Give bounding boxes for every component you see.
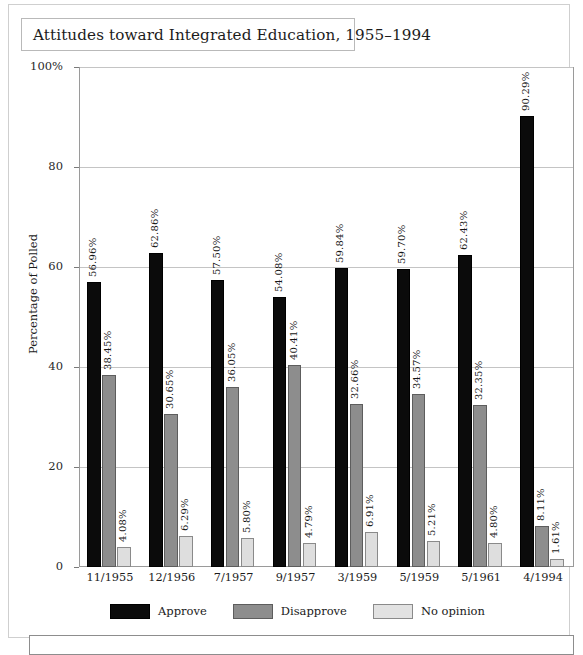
bar-value-label: 32.66% xyxy=(349,359,360,398)
bar-value-label: 90.29% xyxy=(520,71,531,110)
bar-value-label: 5.80% xyxy=(241,500,252,533)
legend-item-no-opinion[interactable]: No opinion xyxy=(373,604,485,619)
bar-disapprove[interactable]: 36.05% xyxy=(226,387,240,567)
bar-value-label: 36.05% xyxy=(226,342,237,381)
bar-group: 62.86%30.65%6.29% xyxy=(149,67,193,567)
bar-disapprove[interactable]: 38.45% xyxy=(102,375,116,567)
bar-no-opinion[interactable]: 1.61% xyxy=(550,559,564,567)
bar-approve[interactable]: 62.86% xyxy=(149,253,163,567)
chart-legend: ApproveDisapproveNo opinion xyxy=(21,599,574,623)
bar-group: 56.96%38.45%4.08% xyxy=(87,67,131,567)
y-tick-label: 40 xyxy=(48,359,63,373)
bar-value-label: 54.08% xyxy=(273,252,284,291)
legend-item-disapprove[interactable]: Disapprove xyxy=(233,604,347,619)
bar-approve[interactable]: 62.43% xyxy=(458,255,472,567)
x-tick-label: 7/1957 xyxy=(203,571,265,584)
bar-group: 54.08%40.41%4.79% xyxy=(273,67,317,567)
bar-value-label: 56.96% xyxy=(87,238,98,277)
x-axis-labels: 11/195512/19567/19579/19573/19595/19595/… xyxy=(79,571,574,591)
bar-approve[interactable]: 59.84% xyxy=(335,268,349,567)
y-axis-title: Percentage of Polled xyxy=(26,194,40,394)
legend-item-approve[interactable]: Approve xyxy=(110,604,207,619)
y-tick-label: 0 xyxy=(56,559,63,573)
chart-container: Percentage of Polled 020406080100% 56.96… xyxy=(21,58,574,618)
legend-swatch-icon xyxy=(233,604,273,619)
bar-value-label: 57.50% xyxy=(211,235,222,274)
bar-group: 90.29%8.11%1.61% xyxy=(520,67,564,567)
bar-no-opinion[interactable]: 6.29% xyxy=(179,536,193,567)
legend-swatch-icon xyxy=(110,604,150,619)
bar-value-label: 34.57% xyxy=(411,350,422,389)
bar-value-label: 59.70% xyxy=(396,224,407,263)
y-axis: Percentage of Polled 020406080100% xyxy=(21,67,73,567)
bar-value-label: 32.35% xyxy=(473,361,484,400)
x-tick-label: 5/1961 xyxy=(450,571,512,584)
y-tick-mark xyxy=(74,567,79,568)
bar-value-label: 40.41% xyxy=(288,321,299,360)
x-tick-label: 11/1955 xyxy=(79,571,141,584)
bar-disapprove[interactable]: 32.35% xyxy=(473,405,487,567)
y-tick-label: 20 xyxy=(48,459,63,473)
y-tick-label: 100% xyxy=(30,59,63,73)
bar-value-label: 6.29% xyxy=(179,498,190,531)
x-tick-label: 12/1956 xyxy=(141,571,203,584)
bar-value-label: 59.84% xyxy=(334,223,345,262)
bar-group: 62.43%32.35%4.80% xyxy=(458,67,502,567)
bar-approve[interactable]: 90.29% xyxy=(520,116,534,567)
bar-no-opinion[interactable]: 5.80% xyxy=(241,538,255,567)
bar-value-label: 38.45% xyxy=(102,330,113,369)
bar-value-label: 62.86% xyxy=(149,208,160,247)
bar-disapprove[interactable]: 40.41% xyxy=(288,365,302,567)
bar-disapprove[interactable]: 30.65% xyxy=(164,414,178,567)
bar-approve[interactable]: 54.08% xyxy=(273,297,287,567)
bottom-panel xyxy=(29,635,574,655)
bar-value-label: 1.61% xyxy=(550,521,561,554)
bar-no-opinion[interactable]: 4.79% xyxy=(303,543,317,567)
legend-label: No opinion xyxy=(421,604,485,618)
bar-no-opinion[interactable]: 6.91% xyxy=(365,532,379,567)
bar-approve[interactable]: 59.70% xyxy=(397,269,411,568)
legend-swatch-icon xyxy=(373,604,413,619)
bar-group: 57.50%36.05%5.80% xyxy=(211,67,255,567)
bar-value-label: 5.21% xyxy=(426,503,437,536)
bar-disapprove[interactable]: 8.11% xyxy=(535,526,549,567)
x-tick-label: 5/1959 xyxy=(388,571,450,584)
bar-disapprove[interactable]: 32.66% xyxy=(350,404,364,567)
bar-value-label: 62.43% xyxy=(458,211,469,250)
bar-value-label: 8.11% xyxy=(535,489,546,522)
y-tick-label: 60 xyxy=(48,259,63,273)
bars-layer: 56.96%38.45%4.08%62.86%30.65%6.29%57.50%… xyxy=(79,67,574,567)
page-title: Attitudes toward Integrated Education, 1… xyxy=(22,26,431,44)
bar-approve[interactable]: 57.50% xyxy=(211,280,225,568)
legend-label: Approve xyxy=(158,604,207,618)
bar-value-label: 4.79% xyxy=(303,505,314,538)
bar-value-label: 4.80% xyxy=(488,505,499,538)
bar-no-opinion[interactable]: 4.80% xyxy=(488,543,502,567)
page-sheet: Attitudes toward Integrated Education, 1… xyxy=(8,4,570,638)
bar-value-label: 30.65% xyxy=(164,369,175,408)
x-tick-label: 4/1994 xyxy=(512,571,574,584)
bar-approve[interactable]: 56.96% xyxy=(87,282,101,567)
bar-group: 59.84%32.66%6.91% xyxy=(335,67,379,567)
legend-label: Disapprove xyxy=(281,604,347,618)
bar-group: 59.70%34.57%5.21% xyxy=(397,67,441,567)
bar-no-opinion[interactable]: 4.08% xyxy=(117,547,131,567)
bar-no-opinion[interactable]: 5.21% xyxy=(427,541,441,567)
x-tick-label: 9/1957 xyxy=(265,571,327,584)
x-tick-label: 3/1959 xyxy=(327,571,389,584)
y-tick-label: 80 xyxy=(48,159,63,173)
bar-value-label: 6.91% xyxy=(364,495,375,528)
bar-value-label: 4.08% xyxy=(117,509,128,542)
chart-title-box: Attitudes toward Integrated Education, 1… xyxy=(21,18,355,51)
bar-disapprove[interactable]: 34.57% xyxy=(412,394,426,567)
